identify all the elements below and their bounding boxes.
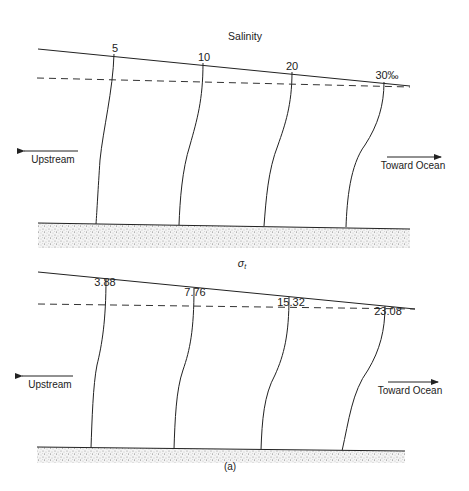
isoline-label: 20 [286, 60, 298, 72]
panel-title: σt [238, 257, 247, 270]
isoline-label: 10 [198, 51, 210, 63]
seabed-sediment [38, 223, 410, 248]
isoline-label: 3.88 [94, 276, 115, 288]
toward-ocean-label: Toward Ocean [378, 385, 442, 396]
sigma-t-panel: σt 3.88 7.76 15.32 23.08 Upstream Toward… [22, 257, 442, 463]
isoline [264, 72, 292, 226]
salinity-panel: Salinity 5 10 20 30‰ Upstream Toward Oce… [24, 30, 445, 248]
reference-dashed-line [37, 78, 410, 87]
upstream-label: Upstream [28, 379, 71, 390]
estuary-diagram: Salinity 5 10 20 30‰ Upstream Toward Oce… [0, 0, 469, 491]
toward-ocean-label: Toward Ocean [381, 160, 445, 171]
isoline-label: 7.76 [184, 286, 205, 298]
upstream-label: Upstream [31, 154, 74, 165]
figure-caption: (a) [224, 461, 236, 472]
isoline-label: 30‰ [375, 69, 398, 81]
isoline [174, 288, 194, 449]
isoline [342, 306, 385, 451]
isoline [261, 297, 289, 450]
isoline [346, 82, 384, 227]
isoline-label: 15.32 [277, 296, 305, 308]
isoline-label: 5 [112, 42, 118, 54]
water-surface-line [38, 49, 410, 86]
isoline-label: 23.08 [374, 305, 402, 317]
reference-dashed-line [38, 304, 415, 309]
isoline [179, 63, 203, 225]
panel-title: Salinity [228, 30, 263, 42]
